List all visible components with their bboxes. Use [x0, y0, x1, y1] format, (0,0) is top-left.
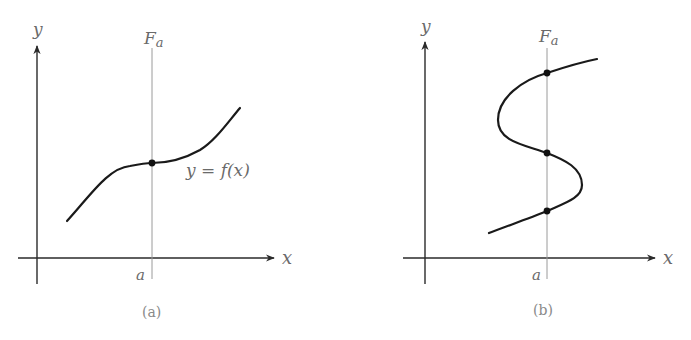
vertical-line-label: Fa	[538, 26, 559, 48]
intersection-point-top	[544, 70, 551, 77]
caption-b: (b)	[533, 302, 553, 318]
tick-label-a: a	[532, 266, 541, 284]
x-axis-label: x	[282, 247, 292, 268]
curve-label: y = f(x)	[185, 160, 250, 180]
figure-canvas: y x Fa a y = f(x) (a) y x Fa a (b)	[0, 0, 691, 340]
panel-b: y x Fa a (b)	[403, 16, 673, 318]
intersection-point-middle	[544, 150, 551, 157]
caption-a: (a)	[142, 304, 161, 320]
x-axis-label: x	[663, 247, 673, 268]
s-curve	[489, 59, 597, 233]
y-axis-label: y	[32, 19, 43, 39]
panel-a: y x Fa a y = f(x) (a)	[18, 19, 292, 320]
intersection-point	[149, 160, 156, 167]
vertical-line-label: Fa	[143, 28, 164, 50]
intersection-point-bottom	[544, 208, 551, 215]
tick-label-a: a	[136, 266, 145, 284]
y-axis-label: y	[420, 16, 431, 36]
